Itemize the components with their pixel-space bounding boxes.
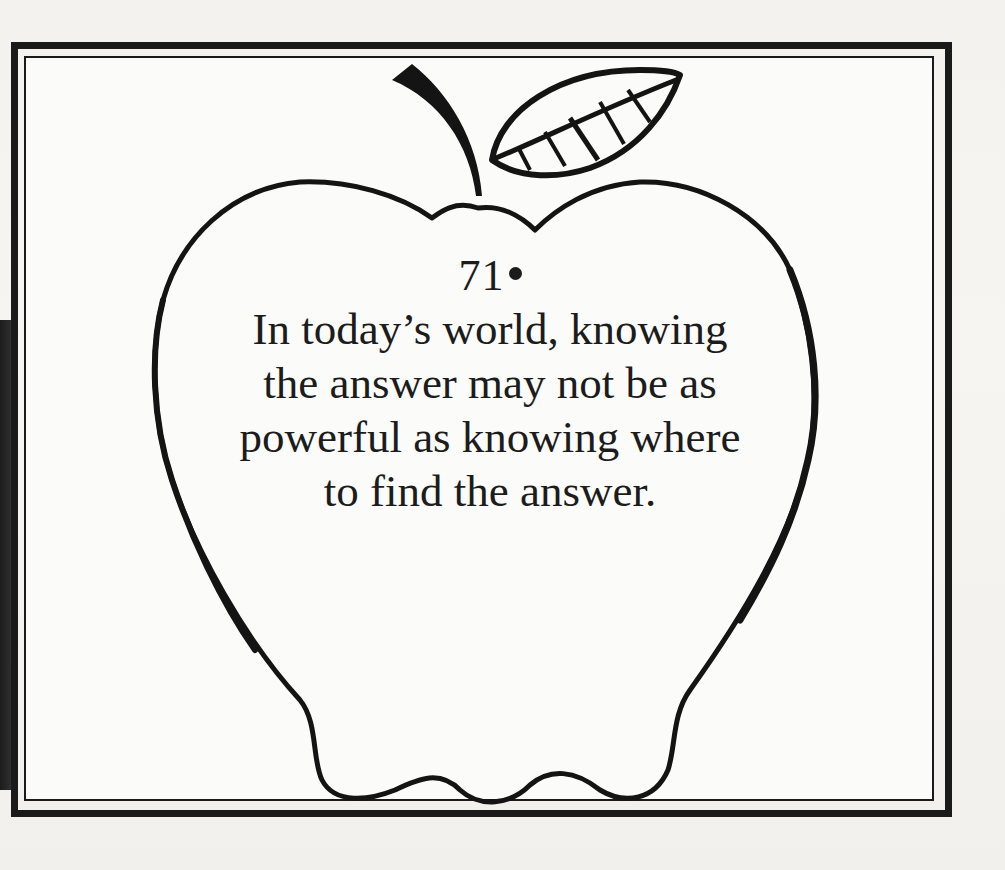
bullet-dot-icon xyxy=(509,267,522,280)
quote-number: 71 xyxy=(190,250,790,302)
quote-line: In today’s world, knowing xyxy=(190,302,790,356)
quote-line: to find the answer. xyxy=(190,464,790,518)
stem-icon xyxy=(392,64,482,196)
quote-number-text: 71 xyxy=(459,251,505,300)
leaf-icon xyxy=(492,70,680,175)
quote-line: powerful as knowing where xyxy=(190,410,790,464)
quote-line: the answer may not be as xyxy=(190,356,790,410)
quote-block: 71 In today’s world, knowing the answer … xyxy=(190,250,790,518)
book-page: 71 In today’s world, knowing the answer … xyxy=(0,0,1005,870)
